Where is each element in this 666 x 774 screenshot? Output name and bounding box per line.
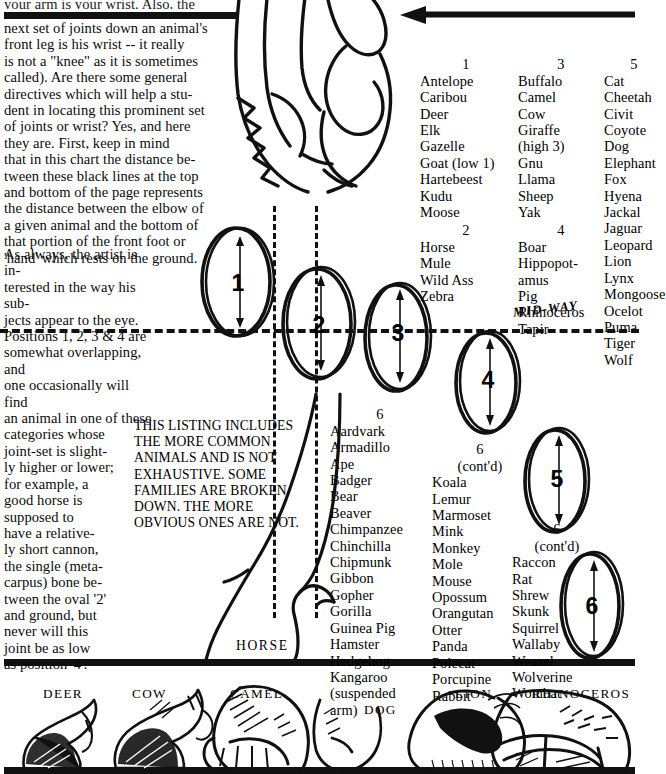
group-6b-heading: 6 (432, 441, 528, 457)
group-3-heading: 3 (518, 56, 604, 72)
dog-paw-drawing (312, 700, 408, 774)
deer-hoof-drawing (20, 694, 118, 772)
clipped-top-text: your arm is your wrist. Also, the (4, 0, 244, 9)
oval-6-number: 6 (554, 595, 630, 618)
animal-group-3: 3Buffalo Camel Cow Giraffe (high 3) Gnu … (518, 40, 604, 220)
animal-group-1: 1Antelope Caribou Deer Elk Gazelle Goat … (420, 40, 512, 220)
group-4-heading: 4 (518, 222, 604, 238)
oval-3-number: 3 (358, 322, 438, 345)
group-5-animals: Cat Cheetah Civit Coyote Dog Elephant Fo… (604, 73, 666, 368)
group-6b-animals: Koala Lemur Marmoset Mink Monkey Mole Mo… (432, 474, 494, 703)
group-1-animals: Antelope Caribou Deer Elk Gazelle Goat (… (420, 73, 495, 220)
animal-group-5: 5Cat Cheetah Civit Coyote Dog Elephant F… (604, 40, 664, 368)
position-oval-4: 4 (449, 327, 527, 437)
foreleg-joint-drawing (228, 0, 408, 194)
top-reference-rule (4, 12, 236, 19)
group-3-animals: Buffalo Camel Cow Giraffe (high 3) Gnu L… (518, 73, 565, 220)
position-oval-5: 5 (518, 424, 596, 536)
group-4-animals: Boar Hippopot- amus Pig Rhinoceros Tapir (518, 239, 585, 337)
oval-4-number: 4 (449, 369, 527, 392)
camel-foot-drawing (200, 686, 330, 774)
group-2-heading: 2 (420, 222, 512, 238)
position-oval-2: 2 (277, 262, 361, 382)
rhinoceros-foot-drawing (486, 690, 636, 774)
oval-2-number: 2 (277, 314, 361, 337)
oval-1-number: 1 (196, 272, 280, 295)
horse-label: HORSE (236, 638, 289, 654)
body-paragraph-2: As always, the artist is in- terested in… (4, 246, 154, 673)
position-oval-1: 1 (196, 224, 280, 340)
pointer-arrow (400, 4, 635, 34)
group-6b-continued: (cont'd) (432, 458, 528, 474)
group-5-heading: 5 (604, 56, 664, 72)
oval-5-number: 5 (518, 468, 596, 491)
group-1-heading: 1 (420, 56, 512, 72)
horse-leg-outline (188, 400, 348, 662)
position-oval-6: 6 (554, 549, 630, 661)
position-oval-3: 3 (358, 278, 438, 394)
